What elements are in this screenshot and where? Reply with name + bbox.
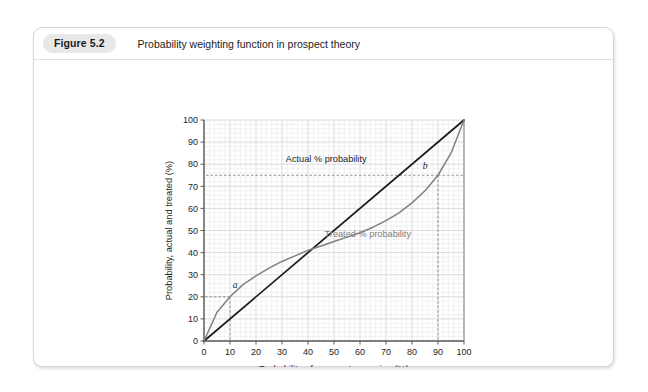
y-tick-label: 80 xyxy=(188,159,198,169)
x-tick-label: 100 xyxy=(456,347,471,357)
x-tick-label: 60 xyxy=(355,347,365,357)
x-tick-label: 50 xyxy=(329,347,339,357)
x-tick-label: 70 xyxy=(381,347,391,357)
x-tick-label: 20 xyxy=(251,347,261,357)
chart-plot-area: Actual % probabilityTreated % probabilit… xyxy=(34,60,613,367)
y-tick-label: 50 xyxy=(188,226,198,236)
y-tick-label: 100 xyxy=(183,115,198,125)
y-tick-label: 90 xyxy=(188,137,198,147)
y-tick-label: 10 xyxy=(188,314,198,324)
y-tick-label: 40 xyxy=(188,248,198,258)
y-tick-label: 20 xyxy=(188,292,198,302)
x-tick-label: 10 xyxy=(225,347,235,357)
annotation-label-b: b xyxy=(423,161,428,171)
series-label-actual: Actual % probability xyxy=(286,154,367,164)
y-tick-label: 60 xyxy=(188,204,198,214)
figure-header: Figure 5.2 Probability weighting functio… xyxy=(34,28,613,60)
x-tick-label: 80 xyxy=(407,347,417,357)
y-tick-label: 0 xyxy=(193,336,198,346)
figure-number-badge: Figure 5.2 xyxy=(43,34,116,53)
figure-card: Figure 5.2 Probability weighting functio… xyxy=(33,27,614,367)
y-axis-title: Probability, actual and treated (%) xyxy=(164,161,174,300)
x-tick-label: 90 xyxy=(433,347,443,357)
annotation-label-a: a xyxy=(233,280,238,290)
series-label-treated: Treated % probability xyxy=(325,229,412,239)
y-tick-label: 70 xyxy=(188,182,198,192)
probability-weighting-chart: Actual % probabilityTreated % probabilit… xyxy=(34,60,615,367)
x-tick-label: 0 xyxy=(201,347,206,357)
figure-caption: Probability weighting function in prospe… xyxy=(138,38,360,50)
y-tick-label: 30 xyxy=(188,270,198,280)
x-tick-label: 40 xyxy=(303,347,313,357)
x-tick-label: 30 xyxy=(277,347,287,357)
x-axis-title: Probability of an event occurring (%) xyxy=(259,364,409,367)
